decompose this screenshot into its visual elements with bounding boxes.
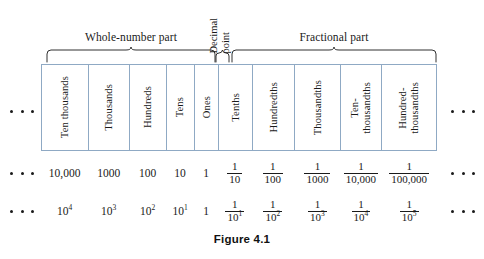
column-label: Tenths (230, 93, 242, 122)
place-value-column-tens: Tens (167, 65, 195, 150)
fraction-value: 1100 (263, 161, 284, 185)
place-value-column-ten-thousandths: Ten- thousandths (341, 65, 382, 150)
exponent-value-cell: 1 (194, 196, 218, 226)
column-label: Hundredths (268, 82, 280, 133)
exponent-value-cell: 1103 (294, 196, 340, 226)
fraction-value: 11000 (304, 161, 330, 185)
decimal-value-cell: 10 (166, 158, 194, 188)
fraction-denominator: 1000 (304, 173, 330, 185)
left-ellipsis-decimal-row (10, 172, 34, 175)
place-value-table: Ten thousandsThousandsHundredsTensOnesTe… (41, 64, 437, 151)
decimal-value-cell: 110 (218, 158, 251, 188)
exponent-value-cell: 101 (166, 196, 194, 226)
exponent-value-cell: 1102 (252, 196, 295, 226)
whole-number-part-label: Whole-number part (47, 31, 215, 43)
power-value: 1 (203, 205, 209, 217)
exponent-value-cell: 104 (41, 196, 88, 226)
power-value: 102 (140, 205, 155, 217)
power-value: 104 (57, 205, 72, 217)
decimal-value-cell: 1 (194, 158, 218, 188)
decimal-value-row: 10,0001000100101110110011000110,0001100,… (41, 158, 437, 188)
column-label: Hundred- thousandths (397, 82, 421, 134)
fraction-numerator: 1 (356, 161, 366, 172)
column-label: Ten thousands (59, 76, 71, 138)
place-value-column-thousandths: Thousandths (295, 65, 341, 150)
fraction-denominator: 100,000 (389, 173, 429, 185)
power-value: 103 (101, 205, 116, 217)
decimal-value-cell: 110,000 (341, 158, 382, 188)
column-label: Tens (174, 97, 186, 117)
fraction-numerator: 1 (268, 161, 278, 172)
fraction-value: 110 (227, 161, 242, 185)
right-ellipsis-table (451, 110, 475, 113)
column-label: Ten- thousandths (349, 82, 373, 134)
fraction-denominator: 105 (400, 211, 419, 223)
fraction-denominator: 10,000 (344, 173, 378, 185)
place-value-column-thousands: Thousands (89, 65, 130, 150)
fraction-denominator: 10 (227, 173, 242, 185)
column-label: Thousandths (312, 80, 324, 135)
fraction-numerator: 1 (230, 161, 240, 172)
left-ellipsis-exponent-row (10, 210, 34, 213)
decimal-value-cell: 100 (129, 158, 166, 188)
fractional-part-brace (231, 47, 437, 63)
decimal-value-cell: 11000 (294, 158, 340, 188)
fraction-value: 110,000 (344, 161, 378, 185)
column-label: Ones (201, 96, 213, 118)
exponent-value-cell: 102 (129, 196, 166, 226)
exponent-value-cell: 1105 (381, 196, 437, 226)
fraction-numerator: 1 (404, 161, 414, 172)
decimal-point-label-line1: Decimal (209, 18, 220, 54)
place-value-column-ones: Ones (195, 65, 219, 150)
fraction-value: 1103 (308, 199, 327, 223)
place-value-column-hundreds: Hundreds (130, 65, 167, 150)
fraction-denominator: 101 (225, 211, 244, 223)
decimal-value-cell: 10,000 (41, 158, 88, 188)
column-label: Hundreds (142, 86, 154, 128)
fraction-value: 1101 (225, 199, 244, 223)
fraction-value: 1105 (400, 199, 419, 223)
fraction-value: 1104 (352, 199, 371, 223)
decimal-value-cell: 1100,000 (381, 158, 437, 188)
fraction-value: 1102 (263, 199, 282, 223)
fraction-denominator: 104 (352, 211, 371, 223)
place-value-column-hundredths: Hundredths (253, 65, 295, 150)
place-value-column-hundred-thousandths: Hundred- thousandths (382, 65, 436, 150)
exponent-value-row: 104103102101111011102110311041105 (41, 196, 437, 226)
place-value-figure: Whole-number part Decimal point Fraction… (0, 0, 484, 259)
whole-number-part-brace (46, 47, 216, 63)
fraction-denominator: 100 (263, 173, 284, 185)
decimal-point-brace (215, 50, 231, 63)
fraction-denominator: 103 (308, 211, 327, 223)
decimal-value-cell: 1000 (88, 158, 129, 188)
fraction-denominator: 102 (263, 211, 282, 223)
exponent-value-cell: 103 (88, 196, 129, 226)
right-ellipsis-exponent-row (451, 210, 475, 213)
fraction-numerator: 1 (313, 161, 323, 172)
right-ellipsis-decimal-row (451, 172, 475, 175)
column-label: Thousands (103, 84, 115, 131)
exponent-value-cell: 1101 (218, 196, 251, 226)
place-value-column-tenths: Tenths (219, 65, 252, 150)
power-value: 101 (172, 205, 187, 217)
decimal-value-cell: 1100 (252, 158, 295, 188)
place-value-column-ten-thousands: Ten thousands (42, 65, 89, 150)
fraction-value: 1100,000 (389, 161, 429, 185)
left-ellipsis-table (10, 110, 34, 113)
figure-caption: Figure 4.1 (0, 233, 484, 245)
fractional-part-label: Fractional part (231, 31, 437, 43)
exponent-value-cell: 1104 (341, 196, 382, 226)
